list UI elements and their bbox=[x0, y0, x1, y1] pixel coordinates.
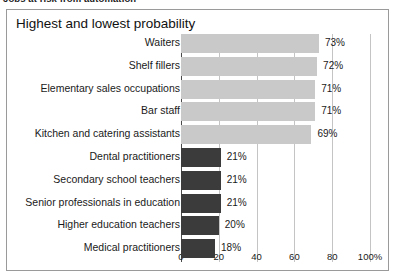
bar bbox=[181, 34, 319, 53]
category-label: Higher education teachers bbox=[57, 218, 180, 230]
bar-row: Kitchen and catering assistants69% bbox=[7, 125, 390, 144]
bar bbox=[181, 102, 315, 121]
bar bbox=[181, 239, 215, 258]
category-label: Senior professionals in education bbox=[25, 196, 180, 208]
bar-value-label: 69% bbox=[317, 128, 337, 139]
caption-text: Jobs at risk from automation bbox=[3, 0, 136, 4]
caption-strip: Jobs at risk from automation bbox=[0, 0, 399, 7]
bar-value-label: 21% bbox=[227, 197, 247, 208]
category-label: Kitchen and catering assistants bbox=[35, 127, 180, 139]
bar-value-label: 21% bbox=[227, 151, 247, 162]
bar-row: Senior professionals in education21% bbox=[7, 194, 390, 213]
bar-row: Medical practitioners18% bbox=[7, 239, 390, 258]
category-label: Medical practitioners bbox=[84, 241, 180, 253]
bar-row: Higher education teachers20% bbox=[7, 216, 390, 235]
bar-value-label: 20% bbox=[225, 219, 245, 230]
bar-value-label: 72% bbox=[323, 60, 343, 71]
category-label: Bar staff bbox=[141, 104, 180, 116]
bar-value-label: 71% bbox=[321, 83, 341, 94]
bar bbox=[181, 216, 219, 235]
bar-row: Shelf fillers72% bbox=[7, 57, 390, 76]
bar-row: Dental practitioners21% bbox=[7, 148, 390, 167]
bar-chart-plot-area: 020406080100%Waiters73%Shelf fillers72%E… bbox=[7, 10, 390, 272]
category-label: Elementary sales occupations bbox=[41, 82, 181, 94]
category-label: Shelf fillers bbox=[129, 59, 180, 71]
bar-value-label: 21% bbox=[227, 174, 247, 185]
bar-value-label: 71% bbox=[321, 105, 341, 116]
bar bbox=[181, 148, 221, 167]
bar bbox=[181, 171, 221, 190]
bar bbox=[181, 125, 311, 144]
bar-row: Waiters73% bbox=[7, 34, 390, 53]
bar bbox=[181, 194, 221, 213]
bar-row: Secondary school teachers21% bbox=[7, 171, 390, 190]
bar bbox=[181, 57, 317, 76]
bar bbox=[181, 80, 315, 99]
bar-row: Elementary sales occupations71% bbox=[7, 80, 390, 99]
chart-panel: Highest and lowest probability 020406080… bbox=[6, 9, 389, 271]
category-label: Dental practitioners bbox=[90, 150, 180, 162]
bar-value-label: 18% bbox=[221, 242, 241, 253]
bar-row: Bar staff71% bbox=[7, 102, 390, 121]
bar-value-label: 73% bbox=[325, 37, 345, 48]
category-label: Secondary school teachers bbox=[53, 173, 180, 185]
category-label: Waiters bbox=[145, 36, 180, 48]
